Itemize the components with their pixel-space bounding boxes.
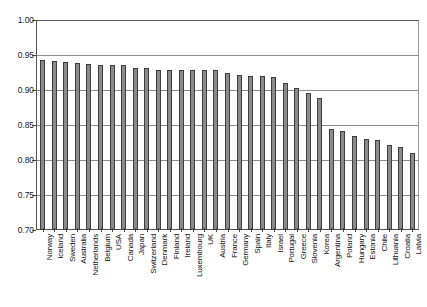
bar-slot — [164, 20, 176, 230]
x-label-slot: Israel — [268, 232, 280, 307]
bar-slot — [129, 20, 141, 230]
x-tick-mark — [112, 228, 113, 232]
x-label-slot: Japan — [129, 232, 141, 307]
bar-slot — [60, 20, 72, 230]
x-tick-mark — [66, 228, 67, 232]
bar — [410, 153, 415, 230]
x-tick-mark — [343, 228, 344, 232]
x-tick-mark — [389, 228, 390, 232]
bar — [317, 98, 322, 230]
x-tick-label: Latvia — [415, 234, 423, 254]
bar-series — [37, 20, 418, 230]
bar — [86, 64, 91, 230]
x-label-slot: Ireland — [176, 232, 188, 307]
bar — [387, 145, 392, 230]
x-label-slot: Portugal — [279, 232, 291, 307]
bar — [75, 63, 80, 230]
bar-slot — [395, 20, 407, 230]
bar — [63, 62, 68, 230]
bar-slot — [141, 20, 153, 230]
x-label-slot: Korea — [314, 232, 326, 307]
y-tick-mark — [32, 20, 36, 21]
x-label-slot: UK — [199, 232, 211, 307]
bar — [98, 65, 103, 230]
y-tick-mark — [32, 195, 36, 196]
x-label-slot: Croatia — [395, 232, 407, 307]
x-tick-mark — [54, 228, 55, 232]
x-label-slot: Latvia — [407, 232, 419, 307]
bar — [167, 70, 172, 230]
x-tick-mark — [251, 228, 252, 232]
x-label-slot: Belgium — [95, 232, 107, 307]
x-tick-mark — [77, 228, 78, 232]
bar-slot — [49, 20, 61, 230]
x-label-slot: Australia — [72, 232, 84, 307]
x-axis-labels: NorwayIcelandSwedenAustraliaNetherlandsB… — [37, 232, 418, 307]
x-label-slot: Norway — [37, 232, 49, 307]
x-label-slot: Slovenia — [303, 232, 315, 307]
bar-slot — [118, 20, 130, 230]
x-tick-mark — [158, 228, 159, 232]
bar-slot — [337, 20, 349, 230]
x-tick-mark — [124, 228, 125, 232]
bar-slot — [256, 20, 268, 230]
x-tick-mark — [262, 228, 263, 232]
bar-slot — [222, 20, 234, 230]
bar — [179, 70, 184, 230]
bar — [306, 93, 311, 230]
bar-slot — [349, 20, 361, 230]
bar-slot — [176, 20, 188, 230]
y-tick-label: 0.70 — [0, 226, 34, 235]
y-tick-mark — [32, 230, 36, 231]
bar-slot — [199, 20, 211, 230]
bar-slot — [106, 20, 118, 230]
y-tick-mark — [32, 125, 36, 126]
x-label-slot: Switzerland — [141, 232, 153, 307]
x-tick-mark — [285, 228, 286, 232]
bar — [271, 77, 276, 230]
x-label-slot: Finland — [164, 232, 176, 307]
bar — [294, 88, 299, 230]
bar — [248, 76, 253, 230]
x-tick-mark — [228, 228, 229, 232]
bar-slot — [407, 20, 419, 230]
x-label-slot: Netherlands — [83, 232, 95, 307]
x-tick-mark — [308, 228, 309, 232]
x-label-slot: Denmark — [152, 232, 164, 307]
bar-slot — [268, 20, 280, 230]
x-tick-mark — [216, 228, 217, 232]
bar — [110, 65, 115, 230]
bar-slot — [72, 20, 84, 230]
bar-slot — [360, 20, 372, 230]
x-label-slot: Austria — [210, 232, 222, 307]
y-tick-label: 0.80 — [0, 156, 34, 165]
bar-slot — [210, 20, 222, 230]
bar-slot — [326, 20, 338, 230]
bar-slot — [314, 20, 326, 230]
x-tick-mark — [170, 228, 171, 232]
x-label-slot: Iceland — [49, 232, 61, 307]
bar — [190, 70, 195, 230]
x-tick-mark — [204, 228, 205, 232]
x-label-slot: Greece — [291, 232, 303, 307]
bar — [375, 140, 380, 230]
x-tick-mark — [274, 228, 275, 232]
x-label-slot: Hungary — [349, 232, 361, 307]
bar-slot — [187, 20, 199, 230]
bar-slot — [372, 20, 384, 230]
x-label-slot: Argentina — [326, 232, 338, 307]
bar — [121, 65, 126, 230]
x-tick-mark — [412, 228, 413, 232]
bar-slot — [303, 20, 315, 230]
bar-slot — [37, 20, 49, 230]
y-tick-label: 0.90 — [0, 86, 34, 95]
bar — [340, 131, 345, 230]
x-tick-mark — [331, 228, 332, 232]
bar-slot — [291, 20, 303, 230]
bar-slot — [279, 20, 291, 230]
x-label-slot: Italy — [256, 232, 268, 307]
bar — [329, 129, 334, 231]
x-tick-mark — [135, 228, 136, 232]
x-label-slot: Germany — [233, 232, 245, 307]
x-tick-mark — [181, 228, 182, 232]
